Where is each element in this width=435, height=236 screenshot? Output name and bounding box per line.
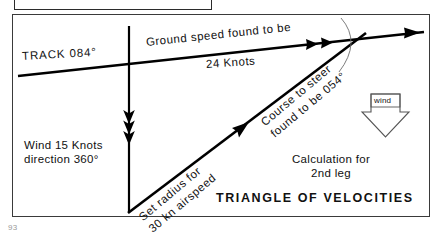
calculation-note: Calculation for 2nd leg [292, 152, 370, 180]
figure-page: TRACK 084° Ground speed found to be 24 K… [0, 0, 435, 236]
calculation-note-line1: Calculation for [292, 152, 370, 166]
calculation-note-line2: 2nd leg [292, 166, 370, 180]
wind-info-line2: direction 360° [24, 152, 103, 166]
wind-info-line1: Wind 15 Knots [24, 138, 103, 152]
wind-badge-label: wind [374, 96, 391, 105]
page-number: 93 [8, 223, 17, 232]
wind-info-label: Wind 15 Knots direction 360° [24, 138, 103, 166]
wind-vector [123, 26, 135, 212]
figure-title: TRIANGLE OF VELOCITIES [216, 191, 414, 205]
